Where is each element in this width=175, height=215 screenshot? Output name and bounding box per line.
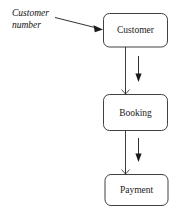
entity-customer[interactable]: Customer [104,14,168,48]
entity-payment[interactable]: Payment [105,175,168,206]
annotation-leader-customer-number [55,18,103,33]
annotation-customer-number-line2: number [12,20,41,30]
leader-line [55,18,97,29]
relationship-customer-to-booking[interactable] [122,47,142,94]
er-diagram: Customer Booking Payment Customer number [0,0,175,215]
annotation-customer-number-line1: Customer [12,8,49,18]
direction-arrow-head-1 [135,74,141,83]
crow-foot-marker-booking [122,89,130,94]
diagram-canvas: Customer Booking Payment Customer number [0,0,175,215]
entity-customer-label: Customer [117,25,155,35]
entity-booking[interactable]: Booking [104,95,168,131]
entity-booking-label: Booking [119,108,152,118]
entity-payment-label: Payment [120,185,154,195]
crow-foot-marker-payment [122,169,130,174]
direction-arrow-head-2 [135,154,141,163]
relationship-booking-to-payment[interactable] [122,131,142,174]
leader-arrow-head [94,25,104,32]
